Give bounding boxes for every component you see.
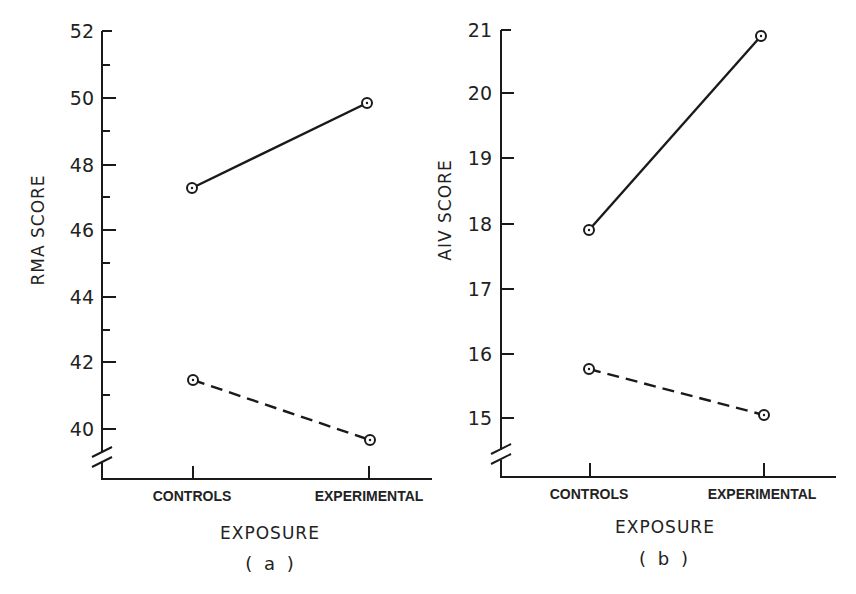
panel-a-y-tick-labels: 52 50 48 46 44 42 40 [70, 20, 94, 440]
data-point-marker [365, 435, 375, 445]
panel-b-y-tick-labels: 21 20 19 18 17 16 15 [468, 19, 492, 429]
y-tick-label: 50 [70, 87, 94, 109]
y-tick-label: 52 [70, 20, 94, 42]
y-tick-label: 46 [70, 219, 94, 241]
y-tick-label: 40 [70, 418, 94, 440]
panel-a-y-axis [92, 31, 116, 479]
y-tick-label: 19 [468, 147, 492, 169]
data-point-marker [584, 225, 594, 235]
y-tick-label: 48 [70, 154, 94, 176]
y-tick-label: 15 [468, 407, 492, 429]
x-category-controls: CONTROLS [550, 486, 629, 502]
data-point-marker [759, 410, 769, 420]
panel-b-solid-series-line [589, 36, 761, 230]
y-tick-label: 16 [468, 343, 492, 365]
panel-a-x-axis [101, 466, 432, 479]
data-point-marker [584, 364, 594, 374]
y-tick-label: 44 [70, 286, 94, 308]
data-point-marker [756, 31, 766, 41]
panel-b-dashed-series-line [589, 369, 764, 415]
y-tick-label: 21 [468, 19, 492, 41]
panel-b-label: ( b ) [639, 548, 691, 569]
panel-a-solid-series-line [192, 103, 367, 188]
x-category-controls: CONTROLS [153, 488, 232, 504]
y-tick-label: 42 [70, 351, 94, 373]
y-tick-label: 20 [468, 82, 492, 104]
panel-a-x-axis-title: EXPOSURE [220, 523, 320, 543]
panel-a: 52 50 48 46 44 42 40 RMA SCORE CONTROLS … [28, 20, 432, 574]
y-tick-label: 17 [468, 278, 492, 300]
figure: 52 50 48 46 44 42 40 RMA SCORE CONTROLS … [0, 0, 856, 594]
panel-a-dashed-series-line [193, 380, 370, 440]
panel-b-x-axis [500, 463, 836, 477]
panel-a-label: ( a ) [245, 553, 297, 574]
panel-b-x-axis-title: EXPOSURE [615, 517, 715, 537]
x-category-experimental: EXPERIMENTAL [315, 488, 424, 504]
panel-b-y-axis [491, 30, 514, 477]
data-point-marker [187, 183, 197, 193]
data-point-marker [362, 98, 372, 108]
panel-a-y-axis-title: RMA SCORE [28, 174, 48, 285]
panel-b-y-axis-title: AIV SCORE [435, 159, 455, 260]
panel-b: 21 20 19 18 17 16 15 AIV SCORE CONTROLS … [435, 19, 836, 569]
y-tick-label: 18 [468, 213, 492, 235]
x-category-experimental: EXPERIMENTAL [708, 486, 817, 502]
data-point-marker [188, 375, 198, 385]
